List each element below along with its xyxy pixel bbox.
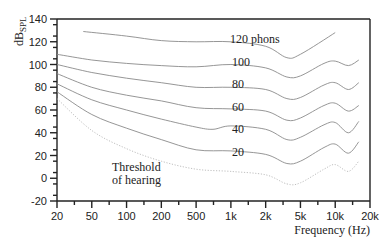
y-axis-label: dBSPL	[12, 16, 28, 46]
curve-20-phons	[57, 92, 359, 164]
equal-loudness-chart: 140120100806040200-20 20501002005001k2k5…	[0, 0, 388, 248]
x-tick-label: 5k	[295, 210, 307, 222]
x-tick-label: 20	[51, 210, 63, 222]
y-tick-label: 0	[41, 172, 47, 184]
phon-curves	[57, 32, 359, 185]
x-axis-label: Frequency (Hz)	[294, 223, 370, 237]
curve-label-20: 20	[232, 145, 244, 159]
curve-label-100: 100	[232, 55, 250, 69]
curve-80-phons	[57, 65, 359, 100]
y-tick-label: 80	[35, 81, 47, 93]
y-axis-label-main: dB	[12, 32, 26, 46]
x-tick-label: 10k	[326, 210, 344, 222]
y-tick-label: 40	[35, 127, 47, 139]
threshold-label-line1: Threshold	[112, 160, 161, 174]
x-tick-label: 1k	[225, 210, 237, 222]
y-tick-label: 120	[29, 36, 47, 48]
y-tick-label: 140	[29, 13, 47, 25]
curve-120-phons	[83, 32, 335, 59]
y-axis-ticks: 140120100806040200-20	[29, 13, 57, 207]
x-tick-label: 50	[86, 210, 98, 222]
x-tick-label: 2k	[260, 210, 272, 222]
y-tick-label: -20	[31, 195, 47, 207]
x-tick-label: 20k	[361, 210, 379, 222]
x-tick-label: 100	[117, 210, 135, 222]
curve-label-60: 60	[232, 100, 244, 114]
threshold-label-line2: of hearing	[112, 173, 161, 187]
y-tick-label: 100	[29, 59, 47, 71]
curve-40-phons	[57, 84, 359, 140]
y-axis-label-sub: SPL	[18, 16, 28, 32]
curve-label-40: 40	[232, 122, 244, 136]
x-axis-ticks: 20501002005001k2k5k10k20k	[51, 201, 379, 222]
y-tick-label: 60	[35, 104, 47, 116]
curve-60-phons	[57, 74, 359, 121]
curve-label-80: 80	[232, 77, 244, 91]
y-tick-label: 20	[35, 150, 47, 162]
x-tick-label: 500	[187, 210, 205, 222]
svg-text:dBSPL: dBSPL	[12, 16, 28, 46]
plot-frame	[57, 19, 370, 201]
x-tick-label: 200	[152, 210, 170, 222]
curve-label-120: 120 phons	[230, 32, 280, 46]
